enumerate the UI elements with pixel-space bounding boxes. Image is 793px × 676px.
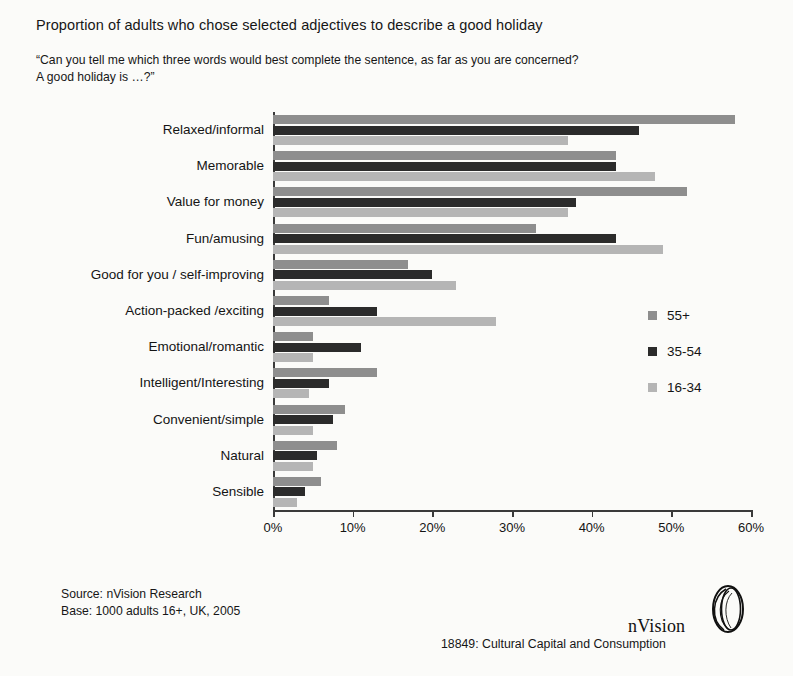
bar-55-	[273, 224, 536, 233]
chart-page: Proportion of adults who chose selected …	[0, 0, 793, 676]
bar-group: Fun/amusing	[273, 224, 751, 254]
brand-name: nVision	[628, 616, 685, 637]
bar-group: Natural	[273, 441, 751, 471]
scan-artifact-top	[150, 2, 154, 17]
bar-16-34	[273, 245, 663, 254]
bar-55-	[273, 296, 329, 305]
x-axis-tick-label: 0%	[264, 520, 283, 535]
category-label: Sensible	[212, 485, 264, 499]
bar-35-54	[273, 198, 576, 207]
bar-35-54	[273, 162, 616, 171]
bar-16-34	[273, 462, 313, 471]
bar-35-54	[273, 234, 616, 243]
page-title: Proportion of adults who chose selected …	[36, 17, 543, 33]
x-axis-tick-label: 20%	[419, 520, 445, 535]
x-axis-tick-label: 30%	[499, 520, 525, 535]
bar-16-34	[273, 426, 313, 435]
category-label: Memorable	[196, 159, 264, 173]
nvision-logo-icon	[704, 584, 752, 634]
bar-group: Memorable	[273, 151, 751, 181]
category-label: Convenient/simple	[153, 413, 264, 427]
survey-question-line-1: “Can you tell me which three words would…	[36, 52, 756, 69]
legend-label: 16-34	[667, 380, 702, 395]
bar-16-34	[273, 389, 309, 398]
source-line-1: Source: nVision Research	[61, 586, 240, 603]
bar-35-54	[273, 487, 305, 496]
x-axis-tick	[353, 510, 355, 517]
bar-55-	[273, 405, 345, 414]
bar-35-54	[273, 270, 432, 279]
bar-55-	[273, 151, 616, 160]
legend-swatch-icon	[648, 347, 657, 356]
bar-35-54	[273, 126, 639, 135]
x-axis-tick-label: 60%	[738, 520, 764, 535]
bar-55-	[273, 115, 735, 124]
brand-block: nVision	[600, 582, 770, 642]
category-label: Intelligent/Interesting	[139, 376, 264, 390]
bar-16-34	[273, 136, 568, 145]
x-axis-tick	[671, 510, 673, 517]
category-label: Value for money	[167, 195, 264, 209]
bar-16-34	[273, 172, 655, 181]
bar-55-	[273, 260, 408, 269]
legend-label: 55+	[667, 308, 690, 323]
bar-35-54	[273, 415, 333, 424]
legend-swatch-icon	[648, 383, 657, 392]
source-note: Source: nVision Research Base: 1000 adul…	[61, 586, 240, 620]
x-axis-tick	[592, 510, 594, 517]
bar-35-54	[273, 379, 329, 388]
bar-group: Convenient/simple	[273, 405, 751, 435]
chart-legend: 55+35-5416-34	[648, 297, 768, 405]
survey-question-line-2: A good holiday is …?”	[36, 69, 756, 86]
x-axis-tick	[751, 510, 753, 517]
source-line-2: Base: 1000 adults 16+, UK, 2005	[61, 603, 240, 620]
legend-item: 55+	[648, 297, 768, 333]
bar-16-34	[273, 281, 456, 290]
bar-group: Relaxed/informal	[273, 115, 751, 145]
survey-question: “Can you tell me which three words would…	[36, 52, 756, 86]
x-axis-tick-label: 40%	[579, 520, 605, 535]
x-axis-tick-label: 10%	[340, 520, 366, 535]
category-label: Emotional/romantic	[148, 340, 264, 354]
bar-55-	[273, 368, 377, 377]
bar-35-54	[273, 451, 317, 460]
bar-group: Value for money	[273, 187, 751, 217]
bar-group: Sensible	[273, 477, 751, 507]
report-reference: 18849: Cultural Capital and Consumption	[441, 637, 666, 651]
x-axis-tick	[432, 510, 434, 517]
bar-group: Good for you / self-improving	[273, 260, 751, 290]
legend-item: 16-34	[648, 369, 768, 405]
bar-16-34	[273, 317, 496, 326]
bar-55-	[273, 332, 313, 341]
category-label: Fun/amusing	[186, 232, 264, 246]
x-axis-tick-label: 50%	[658, 520, 684, 535]
category-label: Good for you / self-improving	[91, 268, 264, 282]
category-label: Action-packed /exciting	[125, 304, 264, 318]
legend-swatch-icon	[648, 311, 657, 320]
bar-16-34	[273, 208, 568, 217]
bar-16-34	[273, 498, 297, 507]
x-axis-tick	[273, 510, 275, 517]
legend-item: 35-54	[648, 333, 768, 369]
x-axis-tick	[512, 510, 514, 517]
legend-label: 35-54	[667, 344, 702, 359]
category-label: Natural	[220, 449, 264, 463]
bar-55-	[273, 187, 687, 196]
bar-55-	[273, 441, 337, 450]
bar-55-	[273, 477, 321, 486]
bar-35-54	[273, 343, 361, 352]
bar-35-54	[273, 307, 377, 316]
bar-16-34	[273, 353, 313, 362]
category-label: Relaxed/informal	[163, 123, 264, 137]
